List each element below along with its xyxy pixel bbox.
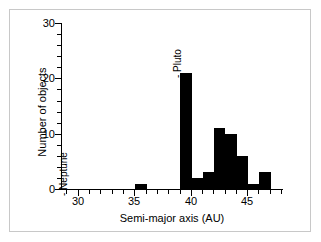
x-tick-label-30: 30 <box>63 196 93 207</box>
y-tick-minor-26 <box>57 45 62 46</box>
plot-area: 0 10 20 30 30 35 40 45 <box>0 0 321 242</box>
x-tick-minor-39 <box>180 190 181 194</box>
x-axis-label: Semi-major axis (AU) <box>61 212 283 224</box>
x-tick-minor-38 <box>168 190 169 194</box>
bar-45-46 <box>248 184 259 189</box>
bar-46-47 <box>259 172 271 189</box>
x-tick-minor-37 <box>157 190 158 194</box>
x-tick-label-35: 35 <box>119 196 149 207</box>
y-tick-minor-22 <box>57 67 62 68</box>
y-tick-minor-18 <box>57 89 62 90</box>
x-tick-label-40: 40 <box>176 196 206 207</box>
y-tick-minor-8 <box>57 145 62 146</box>
y-tick-20 <box>55 78 62 79</box>
y-axis-label: Number of objects <box>36 37 48 187</box>
x-tick-minor-48 <box>281 190 282 194</box>
bar-42-43 <box>214 128 225 189</box>
x-tick-minor-31 <box>89 190 90 194</box>
x-tick-minor-36 <box>146 190 147 194</box>
bar-41-42 <box>203 172 214 189</box>
y-tick-minor-12 <box>57 123 62 124</box>
figure-canvas: 0 10 20 30 30 35 40 45 <box>0 0 321 242</box>
bar-43-44 <box>225 134 237 189</box>
x-tick-minor-46 <box>258 190 259 194</box>
y-tick-label-0: 0 <box>49 184 55 195</box>
y-tick-10 <box>55 134 62 135</box>
y-tick-minor-16 <box>57 101 62 102</box>
x-tick-label-45: 45 <box>232 196 262 207</box>
x-tick-minor-47 <box>270 190 271 194</box>
x-tick-minor-43 <box>225 190 226 194</box>
y-tick-30 <box>55 23 62 24</box>
y-tick-minor-24 <box>57 56 62 57</box>
bar-44-45 <box>237 156 248 189</box>
y-tick-label-30: 30 <box>43 18 55 29</box>
x-tick-minor-41 <box>202 190 203 194</box>
bar-40-41 <box>192 178 203 189</box>
x-tick-minor-32 <box>100 190 101 194</box>
annotation-pluto: - Pluto <box>173 49 183 78</box>
y-tick-minor-14 <box>57 112 62 113</box>
bar-35-36 <box>135 184 147 189</box>
bar-39-40 <box>180 73 192 189</box>
y-tick-minor-28 <box>57 34 62 35</box>
x-axis-spine <box>61 189 283 190</box>
x-tick-minor-44 <box>236 190 237 194</box>
x-tick-minor-33 <box>112 190 113 194</box>
annotation-neptune: - Neptune <box>59 152 69 196</box>
x-tick-minor-34 <box>123 190 124 194</box>
x-tick-minor-42 <box>213 190 214 194</box>
